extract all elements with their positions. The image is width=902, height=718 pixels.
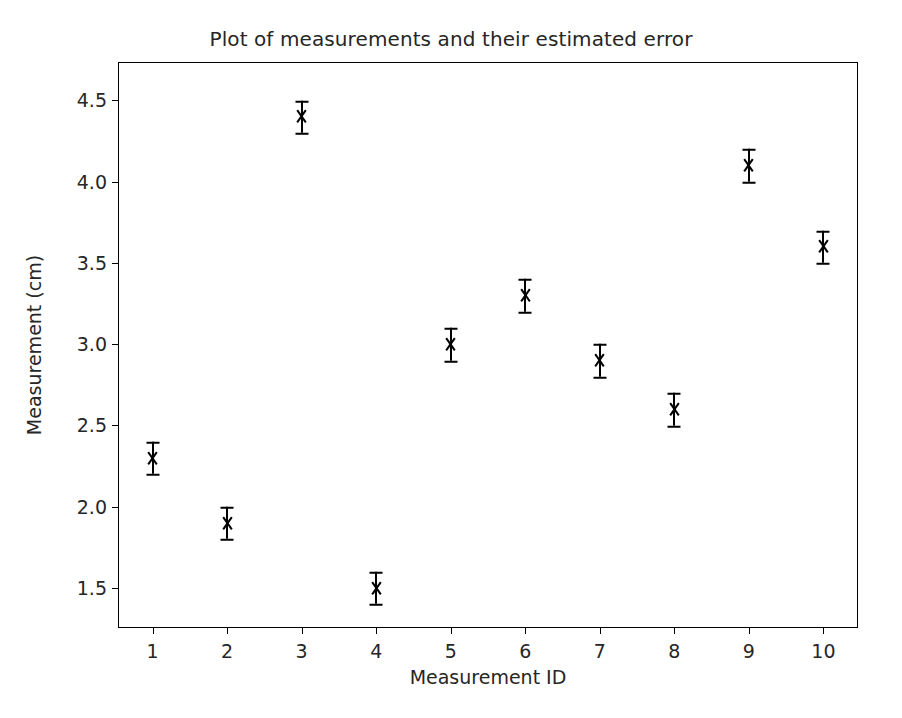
x-marker-icon <box>443 337 458 352</box>
x-tick <box>302 627 303 634</box>
data-point <box>512 279 538 312</box>
data-point <box>438 328 464 361</box>
y-tick-label: 2.5 <box>77 414 107 436</box>
x-tick-label: 2 <box>221 640 233 662</box>
x-tick <box>749 627 750 634</box>
error-bar-cap-top <box>593 344 606 346</box>
error-bar-cap-bottom <box>519 312 532 314</box>
y-axis-label: Measurement (cm) <box>14 65 54 625</box>
x-tick-label: 1 <box>146 640 158 662</box>
error-bar-cap-top <box>146 442 159 444</box>
error-bar-cap-bottom <box>742 182 755 184</box>
x-tick <box>227 627 228 634</box>
x-tick <box>823 627 824 634</box>
y-tick-label: 2.0 <box>77 496 107 518</box>
data-layer <box>119 63 857 627</box>
error-bar-cap-top <box>519 279 532 281</box>
x-axis-label: Measurement ID <box>118 666 858 688</box>
x-marker-icon <box>667 402 682 417</box>
x-marker-icon <box>294 109 309 124</box>
error-bar-cap-top <box>295 100 308 102</box>
x-tick <box>153 627 154 634</box>
x-tick <box>376 627 377 634</box>
error-bar-cap-top <box>444 328 457 330</box>
data-point <box>736 149 762 182</box>
x-tick-label: 10 <box>811 640 835 662</box>
figure-canvas: Plot of measurements and their estimated… <box>0 0 902 718</box>
error-bar-cap-top <box>370 572 383 574</box>
error-bar-cap-top <box>817 230 830 232</box>
x-tick <box>525 627 526 634</box>
y-tick-label: 1.5 <box>77 577 107 599</box>
y-tick-label: 3.5 <box>77 252 107 274</box>
y-tick <box>112 100 119 101</box>
data-point <box>661 393 687 426</box>
error-bar-cap-top <box>221 507 234 509</box>
data-point <box>810 230 836 263</box>
error-bar-cap-top <box>668 393 681 395</box>
x-marker-icon <box>145 450 160 465</box>
x-tick-label: 6 <box>519 640 531 662</box>
data-point <box>363 572 389 605</box>
error-bar-cap-bottom <box>146 474 159 476</box>
y-tick-label: 3.0 <box>77 333 107 355</box>
x-marker-icon <box>369 580 384 595</box>
y-tick <box>112 182 119 183</box>
x-tick <box>600 627 601 634</box>
x-tick-label: 7 <box>594 640 606 662</box>
error-bar-cap-bottom <box>295 133 308 135</box>
x-marker-icon <box>592 353 607 368</box>
x-tick-label: 8 <box>668 640 680 662</box>
x-tick <box>451 627 452 634</box>
error-bar-cap-bottom <box>370 604 383 606</box>
x-marker-icon <box>741 158 756 173</box>
x-tick-label: 9 <box>743 640 755 662</box>
x-tick-label: 3 <box>296 640 308 662</box>
plot-axes: 1.52.02.53.03.54.04.512345678910 <box>118 62 858 628</box>
y-axis-label-text: Measurement (cm) <box>23 255 45 435</box>
y-tick <box>112 344 119 345</box>
error-bar-cap-bottom <box>221 539 234 541</box>
data-point <box>140 442 166 475</box>
x-marker-icon <box>518 288 533 303</box>
x-tick <box>674 627 675 634</box>
error-bar-cap-top <box>742 149 755 151</box>
y-tick-label: 4.0 <box>77 171 107 193</box>
x-tick-label: 4 <box>370 640 382 662</box>
error-bar-cap-bottom <box>817 263 830 265</box>
y-tick-label: 4.5 <box>77 89 107 111</box>
y-tick <box>112 507 119 508</box>
error-bar-cap-bottom <box>668 425 681 427</box>
data-point <box>289 100 315 133</box>
x-tick-label: 5 <box>445 640 457 662</box>
x-marker-icon <box>220 515 235 530</box>
y-tick <box>112 425 119 426</box>
y-tick <box>112 588 119 589</box>
y-tick <box>112 263 119 264</box>
chart-title: Plot of measurements and their estimated… <box>0 27 902 51</box>
error-bar-cap-bottom <box>444 360 457 362</box>
data-point <box>214 507 240 540</box>
data-point <box>587 344 613 377</box>
x-marker-icon <box>816 239 831 254</box>
error-bar-cap-bottom <box>593 377 606 379</box>
